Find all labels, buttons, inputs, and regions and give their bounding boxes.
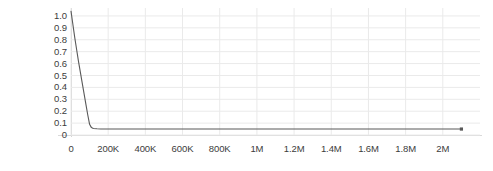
x-axis-tick-label: 1.6M (358, 144, 379, 154)
x-axis-tick-label: 1M (250, 144, 263, 154)
x-axis-tick-label: 1.8M (395, 144, 416, 154)
chart-container: 1.00.90.80.70.60.50.40.30.20.10 0200K400… (0, 0, 493, 171)
x-axis-tick-label: 400K (134, 144, 156, 154)
x-axis-tick-label: 1.4M (321, 144, 342, 154)
x-axis-tick-label: 2M (436, 144, 449, 154)
x-axis-tick-label: 800K (209, 144, 231, 154)
x-axis-tick-labels: 0200K400K600K800K1M1.2M1.4M1.6M1.8M2M (0, 0, 493, 171)
x-axis-tick-label: 1.2M (284, 144, 305, 154)
x-axis-tick-label: 0 (68, 144, 73, 154)
x-axis-tick-label: 600K (172, 144, 194, 154)
x-axis-tick-label: 200K (97, 144, 119, 154)
